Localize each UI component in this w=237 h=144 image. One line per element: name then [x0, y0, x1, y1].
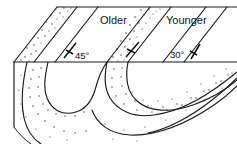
- dip-value-30: 30°: [170, 49, 185, 60]
- label-older: Older: [100, 14, 127, 26]
- fold-contact-left-outer: [22, 62, 41, 144]
- strike-dip-symbol-30: [190, 44, 200, 59]
- block-diagram-canvas: Older Younger 45° 30°: [0, 0, 237, 144]
- fold-contact-band-lower: [127, 62, 237, 110]
- dip-value-45: 45°: [75, 50, 90, 61]
- front-face-folds: [14, 62, 237, 144]
- fold-contact-band-upper: [105, 62, 237, 116]
- fold-contact-left-inner: [45, 62, 107, 113]
- geologic-block-diagram: Older Younger 45° 30°: [0, 0, 237, 144]
- top-stipple-band-left: [20, 7, 71, 61]
- label-younger: Younger: [166, 14, 207, 26]
